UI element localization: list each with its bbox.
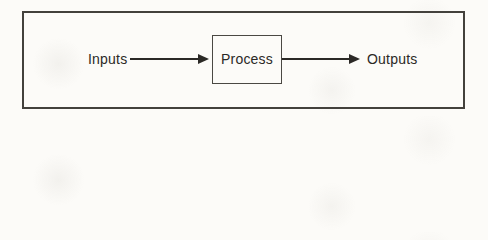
outputs-label: Outputs (367, 52, 417, 67)
process-to-outputs-arrow-icon (282, 58, 349, 60)
process-label: Process (221, 52, 273, 67)
inputs-label: Inputs (88, 52, 127, 67)
process-node: Process (212, 35, 282, 84)
inputs-to-process-arrow-icon (130, 58, 198, 60)
